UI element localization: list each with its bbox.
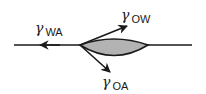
gamma-wa-symbol: γ [35, 20, 43, 36]
gamma-ow-subscript: OW [131, 13, 150, 25]
gamma-wa-label: γWA [35, 20, 63, 36]
gamma-ow-symbol: γ [121, 7, 129, 23]
gamma-oa-subscript: OA [112, 80, 128, 92]
gamma-wa-subscript: WA [45, 26, 62, 38]
gamma-ow-label: γOW [121, 7, 150, 23]
gamma-oa-symbol: γ [102, 74, 110, 90]
gamma-oa-label: γOA [102, 74, 128, 90]
